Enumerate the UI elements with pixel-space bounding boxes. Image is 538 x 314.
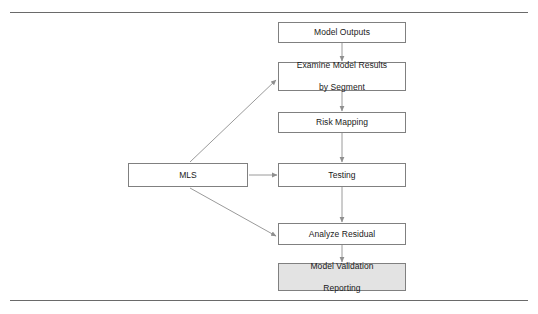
node-model-validation-reporting[interactable]: Model Validation Reporting (278, 263, 406, 291)
node-model-validation-line1: Model Validation (307, 261, 376, 272)
node-analyze-residual[interactable]: Analyze Residual (278, 223, 406, 245)
node-model-outputs[interactable]: Model Outputs (278, 22, 406, 43)
node-model-outputs-label: Model Outputs (311, 27, 373, 38)
node-model-validation-line2: Reporting (307, 283, 376, 294)
diagram-canvas: Model Outputs Examine Model Results by S… (0, 0, 538, 314)
node-examine-results-line2: by Segment (294, 82, 390, 93)
bottom-divider-rule (10, 300, 528, 301)
node-model-validation-reporting-label: Model Validation Reporting (304, 261, 379, 294)
top-divider-rule (10, 12, 528, 13)
node-testing-label: Testing (325, 170, 358, 181)
node-examine-results[interactable]: Examine Model Results by Segment (278, 62, 406, 91)
node-analyze-residual-label: Analyze Residual (306, 229, 378, 240)
edge-mls-to-analyze-residual (190, 188, 276, 236)
node-examine-results-line1: Examine Model Results (294, 60, 390, 71)
node-testing[interactable]: Testing (278, 163, 406, 187)
node-examine-results-label: Examine Model Results by Segment (291, 60, 393, 93)
node-risk-mapping-label: Risk Mapping (313, 117, 371, 128)
node-mls-label: MLS (176, 170, 200, 181)
edge-mls-to-examine-results (190, 80, 276, 162)
node-risk-mapping[interactable]: Risk Mapping (278, 112, 406, 133)
connector-layer (0, 0, 538, 314)
node-mls[interactable]: MLS (128, 163, 248, 187)
